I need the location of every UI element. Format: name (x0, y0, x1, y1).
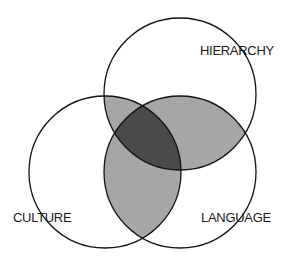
label-hierarchy: HIERARCHY (200, 43, 274, 58)
venn-diagram: HIERARCHY CULTURE LANGUAGE (0, 0, 283, 261)
label-language: LANGUAGE (201, 210, 271, 225)
label-culture: CULTURE (13, 210, 72, 225)
